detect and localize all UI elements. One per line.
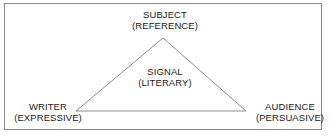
label-audience-line1: AUDIENCE [247,101,333,112]
label-signal-line1: SIGNAL [123,66,207,77]
label-writer: WRITER (EXPRESSIVE) [6,101,90,123]
label-audience: AUDIENCE (PERSUASIVE) [247,101,333,123]
label-audience-line2: (PERSUASIVE) [247,112,333,123]
label-writer-line1: WRITER [6,101,90,112]
label-subject-line2: (REFERENCE) [113,20,217,31]
label-signal: SIGNAL (LITERARY) [123,66,207,88]
diagram-screenshot: SUBJECT (REFERENCE) SIGNAL (LITERARY) WR… [0,0,334,136]
label-subject-line1: SUBJECT [113,9,217,20]
label-subject: SUBJECT (REFERENCE) [113,9,217,31]
label-writer-line2: (EXPRESSIVE) [6,112,90,123]
label-signal-line2: (LITERARY) [123,77,207,88]
